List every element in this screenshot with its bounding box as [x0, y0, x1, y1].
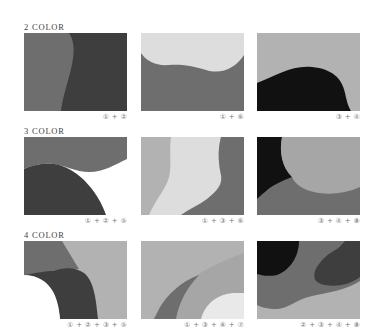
swatch-shape	[141, 241, 244, 319]
section-label-2-color: 2 COLOR	[24, 22, 65, 32]
swatch-2color-2	[141, 33, 244, 111]
swatch-4color-1	[24, 241, 127, 319]
swatch-4color-3	[257, 241, 360, 319]
section-label-4-color: 4 COLOR	[24, 230, 65, 240]
swatch-3color-3	[257, 137, 360, 215]
swatch-shape	[257, 241, 360, 319]
swatch-caption: ① + ③ + ⑥	[141, 217, 244, 225]
swatch-caption: ① + ② + ⑤	[24, 217, 127, 225]
swatch-shape	[24, 137, 127, 215]
swatch-caption: ② + ③ + ④ + ⑧	[257, 321, 360, 329]
swatch-shape	[24, 33, 127, 111]
swatch-caption: ① + ②	[24, 113, 127, 121]
swatch-shape	[141, 137, 244, 215]
swatch-2color-3	[257, 33, 360, 111]
swatch-caption: ① + ⑥	[141, 113, 244, 121]
swatch-shape	[24, 241, 127, 319]
swatch-caption: ③ + ④ + ⑧	[257, 217, 360, 225]
swatch-4color-2	[141, 241, 244, 319]
swatch-caption: ① + ② + ③ + ⑤	[24, 321, 127, 329]
swatch-shape	[141, 33, 244, 111]
section-label-3-color: 3 COLOR	[24, 126, 65, 136]
swatch-3color-2	[141, 137, 244, 215]
swatch-2color-1	[24, 33, 127, 111]
swatch-shape	[257, 33, 360, 111]
swatch-caption: ① + ③ + ⑥ + ⑦	[141, 321, 244, 329]
swatch-3color-1	[24, 137, 127, 215]
swatch-caption: ③ + ④	[257, 113, 360, 121]
swatch-shape	[257, 137, 360, 215]
